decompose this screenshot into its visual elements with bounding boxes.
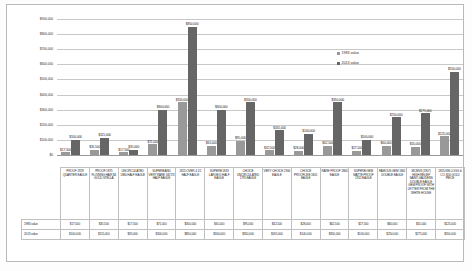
bar-value-label: $165,000	[273, 126, 286, 130]
data-table-body: PROOF 1929 QUARTER EAGLEPROOF 1875 FLOWI…	[22, 168, 465, 240]
bar-series1: $55,000	[411, 147, 420, 155]
bar-group: $32,500$165,000	[261, 19, 288, 155]
bar-series1: $125,000	[440, 136, 449, 155]
bar-series1: $350,000	[178, 102, 187, 155]
category-label-cell: SUPERB GEM MATTE PROOF 1912 EAGLE	[349, 168, 378, 220]
bar-series2: $250,000	[392, 117, 401, 155]
category-label-cell: PROOF 1875 FLOWING HAIR $4 GOLD STELLA	[89, 168, 118, 220]
bar-value-label: $60,000	[381, 141, 392, 145]
bar-series1: $17,500	[119, 152, 128, 155]
document-sheet: $0$100,000$200,000$300,000$400,000$500,0…	[6, 4, 464, 262]
y-axis-tick-label: $500,000	[40, 77, 53, 81]
bar-value-label: $850,000	[186, 22, 199, 26]
table-value-cell: $350,000	[176, 220, 205, 230]
category-label-cell: CHOICE UNCIRCULATED 1795 EAGLE	[234, 168, 263, 220]
y-axis-tick-label: $900,000	[40, 17, 53, 21]
bar-series1: $95,000	[236, 141, 245, 155]
bar-value-label: $115,000	[98, 133, 110, 137]
table-value-cell: $32,500	[262, 220, 291, 230]
category-label-cell: 1825 OVER 4 1/1 HALF EAGLE	[176, 168, 205, 220]
category-label-cell: FAMOUS GEM 1861 DOUBLE EAGLE	[378, 168, 407, 220]
table-value-cell: $35,000	[118, 230, 147, 240]
table-corner-cell	[22, 168, 61, 220]
bar-series1: $28,000	[294, 151, 303, 155]
table-value-cell: $550,000	[435, 230, 464, 240]
bar-value-label: $350,000	[244, 98, 257, 102]
bar-series2: $300,000	[217, 110, 226, 155]
category-label-cell: UNCIRCULATED 1880 HALF EAGLE	[118, 168, 147, 220]
bar-group: $61,000$300,000	[203, 19, 230, 155]
bar-series2: $350,000	[246, 102, 255, 155]
bar-value-label: $35,500	[89, 145, 100, 149]
axis-baseline	[57, 155, 463, 156]
table-value-cell: $350,000	[234, 230, 263, 240]
table-row-categories: PROOF 1929 QUARTER EAGLEPROOF 1875 FLOWI…	[22, 168, 465, 220]
bar-value-label: $17,500	[60, 148, 71, 152]
bar-series2: $35,000	[129, 150, 138, 155]
category-label-cell: PROOF 1929 QUARTER EAGLE	[61, 168, 90, 220]
bar-value-label: $300,000	[157, 105, 170, 109]
legend-swatch	[337, 62, 340, 65]
y-axis-tick-label: $0	[49, 153, 53, 157]
bar-group: $35,500$115,000	[86, 19, 113, 155]
table-value-cell: $850,000	[176, 230, 205, 240]
bar-value-label: $95,000	[235, 136, 246, 140]
table-value-cell: $62,500	[320, 220, 349, 230]
table-value-cell: $55,000	[407, 220, 436, 230]
table-row: 2013 value$100,000$115,000$35,000$300,00…	[22, 230, 465, 240]
table-value-cell: $17,500	[118, 220, 147, 230]
bar-value-label: $100,000	[69, 135, 82, 139]
bar-value-label: $35,000	[128, 145, 139, 149]
table-value-cell: $275,000	[407, 230, 436, 240]
legend-item: 2013 value	[337, 61, 359, 66]
bar-value-label: $32,500	[264, 146, 275, 150]
table-value-cell: $140,000	[291, 230, 320, 240]
y-axis-tick-label: $400,000	[40, 93, 53, 97]
bar-group: $95,000$350,000	[232, 19, 259, 155]
category-label-cell: VERY CHOICE 1906 EAGLE	[262, 168, 291, 220]
bar-group: $60,000$250,000	[378, 19, 405, 155]
data-table: PROOF 1929 QUARTER EAGLEPROOF 1875 FLOWI…	[21, 167, 465, 240]
table-value-cell: $300,000	[205, 230, 234, 240]
bar-group: $62,500$350,000	[319, 19, 346, 155]
bar-value-label: $28,000	[293, 146, 304, 150]
table-value-cell: $35,500	[89, 220, 118, 230]
category-label-cell: CHOICE PROOFLIKE 1801 EAGLE	[291, 168, 320, 220]
bar-value-label: $71,000	[147, 140, 158, 144]
category-label-cell: 1855 KELLOGG & CO. $50 GOLD PIECE	[435, 168, 464, 220]
table-value-cell: $95,000	[234, 220, 263, 230]
category-label-cell: SUPERB AND VERY RARE 1827/3 HALF EAGLE	[147, 168, 176, 220]
category-label-cell: RARE PROOF 1866 EAGLE	[320, 168, 349, 220]
table-value-cell: $100,000	[61, 230, 90, 240]
legend-item: 1983 value	[337, 51, 359, 56]
bar-series2: $300,000	[158, 110, 167, 155]
bar-value-label: $140,000	[302, 129, 315, 133]
bar-value-label: $61,000	[206, 141, 217, 145]
y-axis-tick-label: $700,000	[40, 47, 53, 51]
bar-series1: $17,500	[61, 152, 70, 155]
table-value-cell: $165,000	[262, 230, 291, 240]
bar-value-label: $55,000	[410, 142, 421, 146]
bar-series2: $140,000	[304, 134, 313, 155]
bar-group: $55,000$275,000	[407, 19, 434, 155]
bar-value-label: $62,500	[322, 141, 333, 145]
bar-series2: $550,000	[450, 72, 459, 155]
y-axis-tick-label: $800,000	[40, 32, 53, 36]
chart-legend: 1983 value2013 value	[337, 51, 359, 71]
table-value-cell: $125,000	[435, 220, 464, 230]
bar-group: $71,000$300,000	[144, 19, 171, 155]
table-row-header: 1983 value	[22, 220, 61, 230]
bar-group: $27,500$100,000	[348, 19, 375, 155]
table-value-cell: $350,000	[320, 230, 349, 240]
y-axis-tick-label: $300,000	[40, 108, 53, 112]
table-value-cell: $17,500	[61, 220, 90, 230]
bar-series2: $100,000	[362, 140, 371, 155]
plot-area: $0$100,000$200,000$300,000$400,000$500,0…	[21, 19, 465, 167]
bar-series1: $27,500	[352, 151, 361, 155]
bar-group: $17,500$35,000	[115, 19, 142, 155]
bar-series1: $62,500	[323, 146, 332, 155]
bar-series2: $850,000	[188, 27, 197, 155]
table-value-cell: $28,000	[291, 220, 320, 230]
table-value-cell: $71,000	[147, 220, 176, 230]
bar-value-label: $27,500	[351, 146, 362, 150]
